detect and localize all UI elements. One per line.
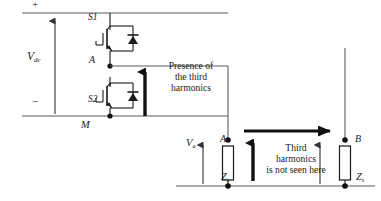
presence-note-line-3: harmonics xyxy=(152,82,230,93)
switch-s1-label: S1 xyxy=(88,12,98,23)
switch-s2-igbt xyxy=(96,83,112,108)
presence-note-line-2: the third xyxy=(152,71,230,82)
va-voltage-label: Va xyxy=(186,137,196,150)
switch-s2-label: S2 xyxy=(88,94,98,105)
vdc-subscript: dc xyxy=(34,56,41,64)
diode-s1-antiparallel xyxy=(110,26,139,51)
impedance-zs-left-label: Zs xyxy=(221,171,229,184)
right-node-a-label: A xyxy=(220,133,226,145)
absence-note-line-1: Third xyxy=(250,142,342,153)
absence-note-line-3: is not seen here xyxy=(250,164,342,175)
vdc-symbol: V xyxy=(27,50,34,62)
rail-positive-label: + xyxy=(32,0,38,11)
impedance-zs-right-label: Zs xyxy=(356,171,364,184)
zs-left-subscript: s xyxy=(227,176,230,183)
rail-negative-label: − xyxy=(32,95,38,108)
diode-s2-antiparallel xyxy=(110,83,139,108)
right-node-b-label: B xyxy=(355,133,361,145)
right-node-a-ground-dot xyxy=(225,183,231,189)
node-a-label: A xyxy=(89,54,95,66)
right-section-feed-wire xyxy=(228,48,345,140)
va-subscript: a xyxy=(192,142,195,149)
absence-note-line-2: harmonics xyxy=(250,153,342,164)
zs-right-subscript: s xyxy=(362,176,365,183)
node-m-label: M xyxy=(81,119,90,131)
node-m-junction-dot xyxy=(107,113,112,118)
switch-s1-igbt xyxy=(96,26,112,51)
circuit-diagram-figure: + − Vdc S1 S2 A M Presence of the third … xyxy=(0,0,381,201)
vdc-source-label: Vdc xyxy=(27,50,41,64)
right-node-b-ground-dot xyxy=(342,183,348,189)
presence-of-third-harmonics-note: Presence of the third harmonics xyxy=(152,60,230,93)
presence-note-line-1: Presence of xyxy=(152,60,230,71)
third-harmonics-absence-note: Third harmonics is not seen here xyxy=(250,142,342,175)
right-node-b-dot xyxy=(342,137,348,143)
